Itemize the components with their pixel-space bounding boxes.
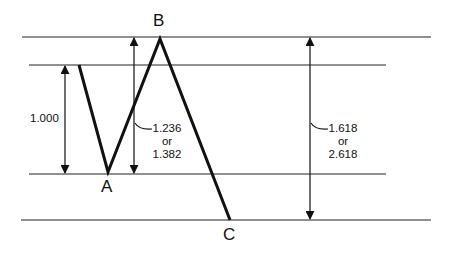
ratio-1236: 1.236 — [150, 122, 184, 135]
point-label-c: C — [223, 226, 235, 243]
ratio-or-1: or — [150, 135, 184, 148]
ratio-label-1618-2618: 1.618 or 2.618 — [326, 122, 360, 161]
fibonacci-extension-diagram — [0, 0, 454, 256]
ratio-or-2: or — [326, 135, 360, 148]
ratio-1382: 1.382 — [150, 148, 184, 161]
point-label-a: A — [101, 178, 112, 195]
point-label-b: B — [153, 12, 164, 29]
ratio-label-1236-1382: 1.236 or 1.382 — [150, 122, 184, 161]
ratio-1618: 1.618 — [326, 122, 360, 135]
ratio-label-1000: 1.000 — [30, 112, 59, 125]
ratio-2618: 2.618 — [326, 148, 360, 161]
